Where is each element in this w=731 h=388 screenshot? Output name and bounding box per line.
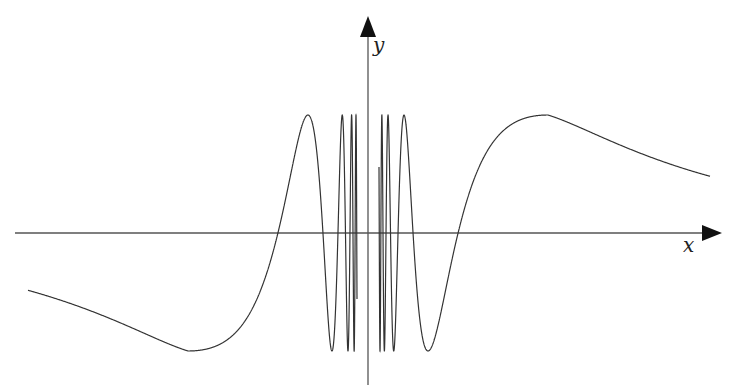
plot-canvas: x y	[0, 0, 731, 388]
function-plot: x y	[0, 0, 731, 388]
y-axis-label: y	[372, 33, 385, 57]
x-axis-arrow	[702, 225, 722, 241]
x-axis-label: x	[683, 233, 694, 257]
